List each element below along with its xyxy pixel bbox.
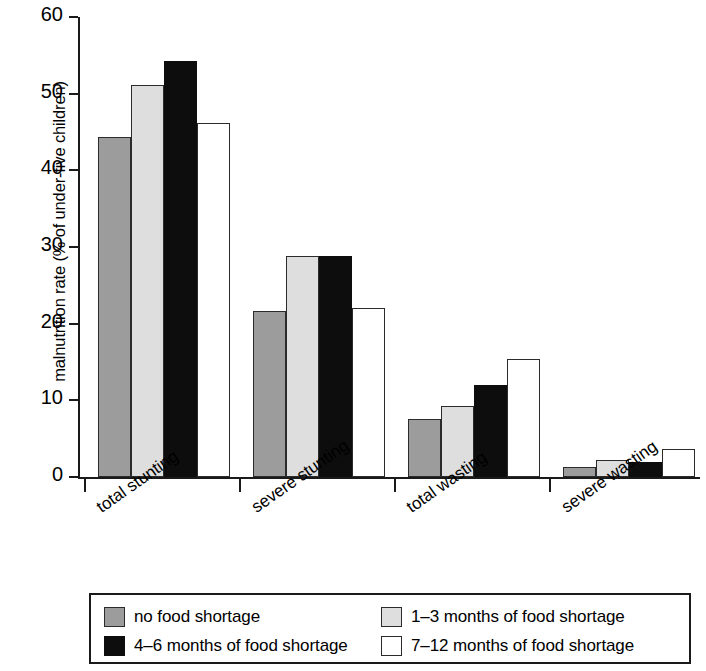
legend-item-7-12-months: 7–12 months of food shortage — [381, 636, 634, 656]
y-axis-tick: 30 — [69, 246, 78, 248]
bar — [131, 85, 164, 477]
bar — [662, 449, 695, 477]
bar-chart-figure: malnutrition rate (% of under-five child… — [0, 0, 706, 671]
bar — [352, 308, 385, 477]
swatch-4-6-months — [104, 636, 125, 656]
y-axis-tick-label: 0 — [23, 464, 63, 484]
legend-row: 4–6 months of food shortage 7–12 months … — [104, 631, 689, 660]
bar — [408, 419, 441, 477]
y-axis-tick: 50 — [69, 93, 78, 95]
y-axis-tick-label: 20 — [23, 311, 63, 331]
swatch-no-food-shortage — [104, 607, 125, 627]
bar — [563, 467, 596, 477]
y-axis-tick-label: 40 — [23, 157, 63, 177]
x-axis-tick — [394, 479, 396, 492]
swatch-1-3-months — [381, 607, 402, 627]
y-axis-tick: 10 — [69, 399, 78, 401]
swatch-7-12-months — [381, 636, 402, 656]
bar — [164, 61, 197, 477]
legend-label: 1–3 months of food shortage — [411, 607, 625, 627]
bar — [253, 311, 286, 477]
x-axis-tick — [84, 479, 86, 492]
y-axis-tick-label: 60 — [23, 4, 63, 24]
bar — [197, 123, 230, 477]
legend-label: 4–6 months of food shortage — [134, 636, 348, 656]
legend-label: no food shortage — [134, 607, 260, 627]
y-axis-tick-label: 10 — [23, 387, 63, 407]
y-axis-line — [78, 17, 80, 478]
legend-row: no food shortage 1–3 months of food shor… — [104, 602, 689, 631]
plot-area: 0102030405060 — [78, 17, 700, 477]
x-axis-tick — [239, 479, 241, 492]
y-axis-tick: 0 — [69, 476, 78, 478]
y-axis-tick: 60 — [69, 16, 78, 18]
y-axis-tick-label: 30 — [23, 234, 63, 254]
y-axis-tick-label: 50 — [23, 81, 63, 101]
legend-item-no-food-shortage: no food shortage — [104, 607, 381, 627]
legend-label: 7–12 months of food shortage — [411, 636, 634, 656]
bar — [98, 137, 131, 477]
legend-item-1-3-months: 1–3 months of food shortage — [381, 607, 625, 627]
x-axis-tick — [549, 479, 551, 492]
bar — [507, 359, 540, 477]
legend-item-4-6-months: 4–6 months of food shortage — [104, 636, 381, 656]
chart-legend: no food shortage 1–3 months of food shor… — [89, 593, 691, 664]
y-axis-tick: 40 — [69, 169, 78, 171]
bar — [286, 256, 319, 477]
y-axis-tick: 20 — [69, 323, 78, 325]
